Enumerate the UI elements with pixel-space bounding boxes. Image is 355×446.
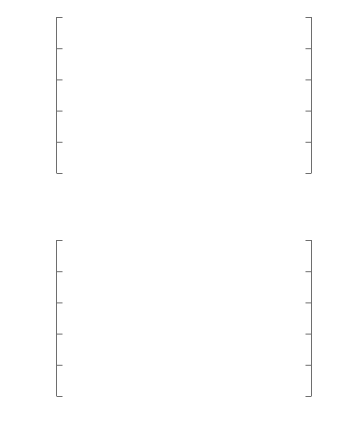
bottom-panel [21,240,312,397]
top-panel [21,17,312,174]
figure-svg [0,0,355,446]
top-left-ticks [57,18,63,174]
bottom-left-ticks [57,241,63,397]
boxplot-figure [0,0,355,446]
top-right-ticks [306,18,312,174]
bottom-right-ticks [306,241,312,397]
